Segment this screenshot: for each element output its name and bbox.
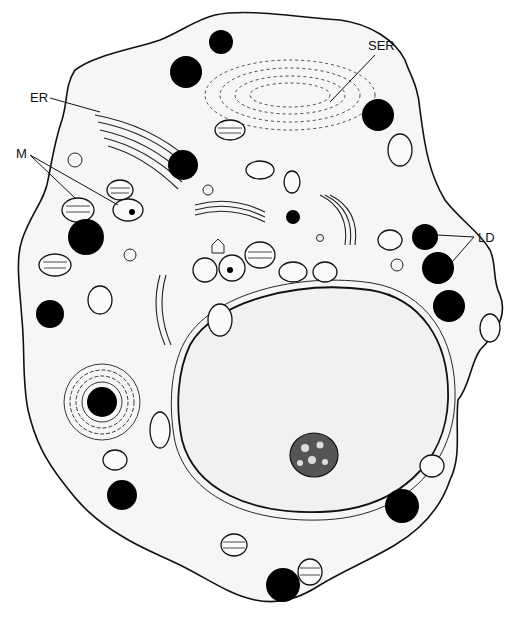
label-ld-text: LD: [478, 230, 495, 245]
label-er-text: ER: [30, 90, 48, 105]
label-ser-text: SER: [368, 38, 395, 53]
label-m-text: M: [16, 146, 27, 161]
nucleolus: [290, 433, 338, 477]
cell-diagram: SER ER M LD: [0, 0, 529, 624]
